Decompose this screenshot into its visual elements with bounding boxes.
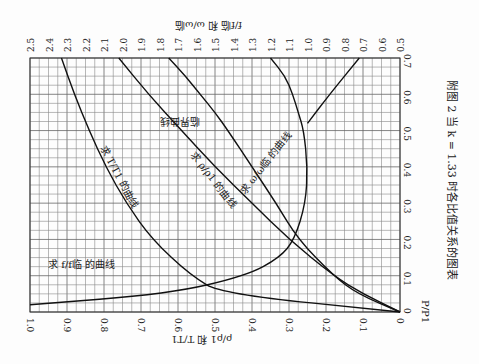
left-axis-tick: 0.1 <box>358 318 368 332</box>
curve-label-crit: 临界曲线 <box>160 116 200 128</box>
x-axis-tick: 0.3 <box>402 199 412 214</box>
right-axis-tick: 0.8 <box>341 37 351 52</box>
right-axis-tick: 1.0 <box>304 37 314 52</box>
curve-label-f: 求 f/f临 的曲线 <box>48 258 115 270</box>
right-axis-tick: 1.6 <box>193 37 203 52</box>
right-axis-tick: 1.3 <box>248 37 258 52</box>
right-axis-tick: 1.2 <box>267 38 277 52</box>
right-axis-tick: 2.1 <box>100 38 110 52</box>
left-axis-tick: 0.8 <box>99 318 109 333</box>
right-axis-tick: 1.9 <box>137 37 147 52</box>
x-axis-tick: 0.2 <box>402 235 412 249</box>
right-axis-tick: 2.0 <box>119 37 129 52</box>
left-axis-tick: 1.0 <box>25 318 35 333</box>
x-axis-tick: 0.7 <box>402 54 412 69</box>
left-axis-tick: 0.6 <box>173 318 183 333</box>
x-axis-tick: 0.1 <box>402 272 412 286</box>
left-axis-tick: 0.2 <box>321 318 331 332</box>
left-axis-title: ρ/ρ1 和 T/T1 <box>171 334 232 345</box>
curve-line <box>308 58 360 123</box>
x-axis-tick: 0.4 <box>402 163 412 178</box>
right-axis-tick: 1.5 <box>211 37 221 52</box>
x-axis-tick: 0.5 <box>402 127 412 142</box>
right-axis-tick: 1.8 <box>156 37 166 52</box>
left-axis-tick: 0.7 <box>136 318 146 333</box>
x-axis-title: P/P1 <box>420 300 431 323</box>
right-axis-tick: 1.4 <box>230 37 240 52</box>
right-axis-tick: 0.9 <box>322 37 332 52</box>
left-axis-tick: 0.9 <box>62 318 72 333</box>
curve-label-T: 求 T/T1 的曲线 <box>98 143 141 210</box>
x-axis-tick: 0 <box>402 308 412 314</box>
x-axis-tick: 0.6 <box>402 90 412 105</box>
right-axis-title: f/f临 和 ω/ω临 <box>175 20 242 32</box>
right-axis-tick: 2.2 <box>82 38 92 52</box>
right-axis-tick: 2.4 <box>45 37 55 52</box>
right-axis-tick: 1.1 <box>285 38 295 52</box>
left-axis-tick: 0.4 <box>247 318 257 333</box>
left-axis-tick: 0 <box>395 318 405 324</box>
right-axis-tick: 2.5 <box>26 37 36 52</box>
chart-caption: 附图 2 当 k = 1.33 时各比值关系的图表 <box>445 80 459 280</box>
right-axis-tick: 0.6 <box>378 37 388 52</box>
ratio-chart: 1.00.90.80.70.60.50.40.30.20.102.52.42.3… <box>0 0 479 364</box>
right-axis-tick: 0.5 <box>396 37 406 52</box>
left-axis-tick: 0.5 <box>210 318 220 333</box>
left-axis-tick: 0.3 <box>284 318 294 333</box>
right-axis-tick: 1.7 <box>174 37 184 52</box>
right-axis-tick: 0.7 <box>359 37 369 52</box>
right-axis-tick: 2.3 <box>63 37 73 52</box>
